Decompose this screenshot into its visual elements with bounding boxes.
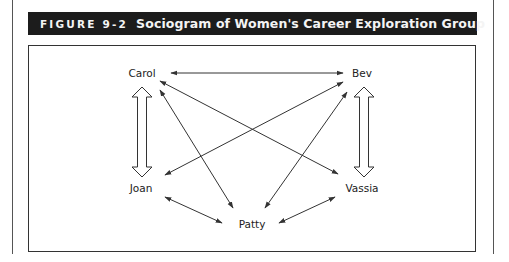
edge-bev-patty	[265, 92, 347, 208]
hollow-double-arrow-carol-joan	[132, 87, 152, 177]
node-carol: Carol	[128, 67, 155, 79]
node-joan: Joan	[130, 182, 153, 194]
edge-carol-patty	[160, 90, 233, 208]
node-bev: Bev	[352, 67, 372, 79]
hollow-double-arrow-bev-vassia	[354, 87, 374, 177]
edge-joan-patty	[165, 197, 222, 223]
node-vassia: Vassia	[345, 182, 378, 194]
edge-carol-vassia	[160, 81, 338, 174]
node-patty: Patty	[239, 218, 266, 230]
edge-bev-joan	[165, 82, 343, 175]
edge-patty-vassia	[279, 197, 335, 223]
